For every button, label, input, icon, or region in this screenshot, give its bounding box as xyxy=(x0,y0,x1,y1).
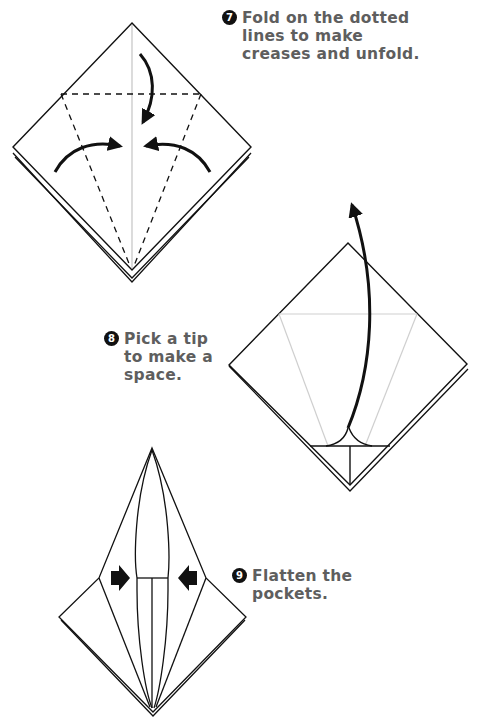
step-9-instruction: 9 Flatten the pockets. xyxy=(232,567,352,603)
instruction-line: Pick a tip xyxy=(104,330,213,348)
instruction-line: pockets. xyxy=(232,585,352,603)
instruction-line: to make a xyxy=(104,348,213,366)
paper-square xyxy=(229,243,467,485)
instruction-line: Fold on the dotted xyxy=(222,9,420,27)
step-number-badge: 9 xyxy=(232,568,247,583)
step-number-badge: 7 xyxy=(222,10,237,25)
step-8-diagram xyxy=(229,205,468,491)
origami-diagram xyxy=(0,0,483,724)
step-9-diagram xyxy=(59,448,246,716)
instruction-line: lines to make xyxy=(222,27,420,45)
step-7-diagram xyxy=(13,23,251,282)
instruction-line: Flatten the xyxy=(232,567,352,585)
step-number-badge: 8 xyxy=(104,331,119,346)
instruction-line: space. xyxy=(104,366,213,384)
step-8-instruction: 8 Pick a tip to make a space. xyxy=(104,330,213,384)
step-7-instruction: 7 Fold on the dotted lines to make creas… xyxy=(222,9,420,63)
instruction-line: creases and unfold. xyxy=(222,45,420,63)
